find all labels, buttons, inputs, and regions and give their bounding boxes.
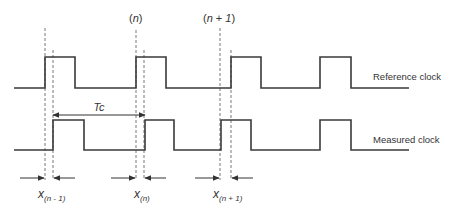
offset-indicator: x(n - 1) [20,178,75,203]
reference-clock-waveform [14,57,409,88]
label-n-plus-1: (n + 1) [203,12,235,24]
offset-label: x(n + 1) [212,187,243,203]
offset-indicators: x(n - 1)x(n)x(n + 1) [20,178,253,203]
reference-clock-label: Reference clock [373,71,441,82]
period-indicator: Tc [53,101,145,115]
period-label: Tc [93,101,105,113]
offset-indicator: x(n) [111,178,166,203]
offset-label: x(n) [133,187,150,203]
clock-timing-diagram: (n) (n + 1) Reference clock Measured clo… [0,0,458,216]
measured-clock-waveform [14,120,409,150]
offset-label: x(n - 1) [37,187,66,203]
dashed-reference-lines [45,28,231,180]
label-n: (n) [129,12,142,24]
measured-clock-label: Measured clock [373,134,440,145]
offset-indicator: x(n + 1) [195,178,253,203]
